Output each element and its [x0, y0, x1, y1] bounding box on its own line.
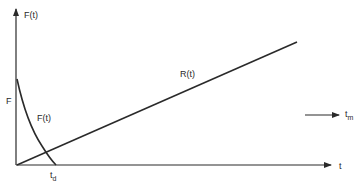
decay-curve-label: F(t)	[37, 113, 51, 123]
ramp-line	[17, 42, 297, 165]
decay-end-label: td	[50, 170, 57, 182]
y-axis-label: F(t)	[24, 10, 38, 20]
ramp-line-label: R(t)	[180, 69, 195, 79]
side-arrow-label: tm	[345, 109, 354, 121]
x-axis-label: t	[339, 161, 342, 171]
initial-value-label: F	[6, 96, 12, 106]
diagram-canvas: F(t) t F F(t) td R(t) tm	[0, 0, 363, 187]
